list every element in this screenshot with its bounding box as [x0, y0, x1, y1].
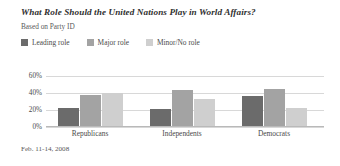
- plot-area: [46, 76, 324, 127]
- chart-card: What Role Should the United Nations Play…: [0, 0, 340, 166]
- bar-republicans-major-role: [80, 95, 101, 127]
- legend-label-minor-no-role: Minor/No role: [157, 38, 200, 47]
- legend-label-major-role: Major role: [98, 38, 129, 47]
- bar-independents-major-role: [172, 90, 193, 127]
- x-axis-label-republicans: Republicans: [72, 129, 109, 138]
- bar-independents-minor-no-role: [194, 99, 215, 127]
- gridline-0: [46, 127, 324, 128]
- bar-democrats-major-role: [264, 89, 285, 127]
- bar-group-independents: [150, 76, 215, 127]
- y-axis-labels: 60%40%20%0%: [18, 76, 42, 127]
- bar-republicans-leading-role: [58, 108, 79, 127]
- bar-group-democrats: [242, 76, 307, 127]
- page-title: What Role Should the United Nations Play…: [21, 7, 256, 17]
- chart-legend: Leading role Major role Minor/No role: [21, 38, 217, 47]
- legend-item-leading-role: Leading role: [21, 38, 70, 47]
- legend-swatch-leading-role-icon: [21, 39, 28, 46]
- bar-democrats-minor-no-role: [286, 108, 307, 127]
- bar-independents-leading-role: [150, 109, 171, 127]
- bar-republicans-minor-no-role: [102, 93, 123, 127]
- bar-democrats-leading-role: [242, 96, 263, 127]
- y-axis-tick-20: 20%: [29, 106, 42, 114]
- x-axis-label-independents: Independents: [162, 129, 201, 138]
- bar-group-republicans: [58, 76, 123, 127]
- legend-label-leading-role: Leading role: [32, 38, 70, 47]
- legend-item-minor-no-role: Minor/No role: [146, 38, 200, 47]
- y-axis-tick-60: 60%: [29, 72, 42, 80]
- legend-swatch-minor-no-role-icon: [146, 39, 153, 46]
- legend-swatch-major-role-icon: [87, 39, 94, 46]
- y-axis-tick-0: 0%: [32, 123, 42, 131]
- legend-item-major-role: Major role: [87, 38, 129, 47]
- footer-date: Feb. 11-14, 2008: [21, 145, 69, 153]
- x-axis-label-democrats: Democrats: [258, 129, 290, 138]
- x-axis-baseline: [46, 126, 324, 127]
- y-axis-tick-40: 40%: [29, 89, 42, 97]
- chart-subtitle: Based on Party ID: [21, 22, 75, 31]
